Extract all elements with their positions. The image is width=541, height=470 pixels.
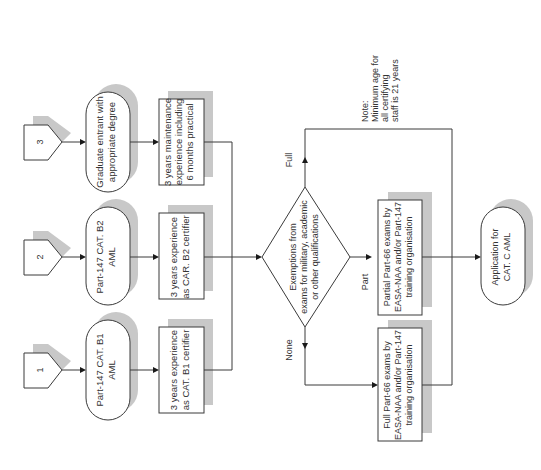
start-node-graduate-line2: appropriate degree — [106, 102, 117, 182]
arrow-icon — [153, 254, 159, 260]
exam-box-partial-line1: Partial Part-66 exams by — [382, 207, 392, 306]
experience-box-2-line2: as CAR. B2 certifier — [180, 215, 191, 298]
arrow-icon — [80, 367, 86, 373]
exam-box-full-line1: Full Part-66 exams by — [382, 341, 392, 429]
experience-box-2: 3 years experience as CAR. B2 certifier — [159, 205, 213, 299]
note-min-age: Note: Minimum age for all certifying sta… — [360, 55, 400, 122]
experience-box-3-line1: 3 years maintenance — [162, 98, 173, 186]
note-line4: staff is 21 years — [390, 59, 400, 122]
decision-exemptions: Exemptions from exams for military, acad… — [262, 187, 350, 327]
start-node-b1-line1: Part-147 CAT. B1 — [94, 333, 105, 406]
experience-box-3-line3: 6 months practical — [184, 103, 195, 180]
end-node-line2: CAT. C AML — [502, 233, 512, 281]
arrow-icon — [372, 382, 378, 388]
exam-box-full-line3: training organisation — [404, 344, 414, 425]
end-node-application: Application for CAT. C AML — [481, 199, 533, 305]
connector-3-label: 3 — [35, 139, 45, 144]
start-node-b1: Part-147 CAT. B1 AML — [86, 312, 138, 420]
arrow-icon — [153, 139, 159, 145]
arrow-icon — [80, 139, 86, 145]
arrow-icon — [80, 254, 86, 260]
experience-box-1-line1: 3 years experience — [168, 330, 179, 410]
exam-box-partial: Partial Part-66 exams by EASA-NAA and/or… — [378, 192, 432, 315]
experience-box-2-line1: 3 years experience — [168, 217, 179, 297]
note-line2: Minimum age for — [370, 55, 380, 122]
flowchart-canvas: 3 2 1 Graduate entrant with appropriate … — [0, 0, 541, 470]
note-line1: Note: — [360, 100, 370, 122]
arrow-icon — [302, 157, 308, 163]
start-node-graduate-line1: Graduate entrant with — [94, 96, 105, 187]
start-node-graduate: Graduate entrant with appropriate degree — [86, 84, 138, 192]
connector-2: 2 — [24, 231, 71, 275]
exam-box-partial-line2: EASA-NAA and/or Part-147 — [393, 202, 403, 312]
start-node-b2-line2: AML — [106, 247, 117, 267]
start-node-b2-line1: Part-147 CAT. B2 — [94, 220, 105, 293]
note-line3: all certifying — [380, 74, 390, 122]
connector-2-label: 2 — [35, 254, 45, 259]
decision-line1: Exemptions from — [288, 223, 298, 291]
experience-box-1: 3 years experience as CAT. B1 certifier — [159, 319, 213, 413]
start-node-b1-line2: AML — [106, 360, 117, 380]
connector-1-label: 1 — [35, 367, 45, 372]
decision-line2: exams for military, academic — [299, 200, 309, 314]
exam-box-full: Full Part-66 exams by EASA-NAA and/or Pa… — [378, 320, 432, 441]
experience-box-3: 3 years maintenance experience including… — [159, 91, 213, 186]
exam-box-full-line2: EASA-NAA and/or Part-147 — [393, 330, 403, 440]
branch-label-none: None — [284, 339, 294, 361]
arrow-icon — [256, 254, 262, 260]
branch-label-full: Full — [284, 153, 294, 168]
start-node-b2: Part-147 CAT. B2 AML — [86, 199, 138, 305]
arrow-icon — [153, 367, 159, 373]
end-node-line1: Application for — [490, 228, 500, 285]
connector-1: 1 — [24, 344, 71, 388]
connector-3: 3 — [24, 116, 71, 160]
arrow-icon — [366, 254, 372, 260]
branch-label-part: Part — [360, 273, 370, 290]
exam-box-partial-line3: training organisation — [404, 216, 414, 297]
experience-box-1-line2: as CAT. B1 certifier — [180, 330, 191, 411]
experience-box-3-line2: experience including — [173, 99, 184, 186]
arrow-icon — [302, 343, 308, 349]
decision-line3: or other qualifications — [310, 214, 320, 300]
arrow-icon — [475, 254, 481, 260]
